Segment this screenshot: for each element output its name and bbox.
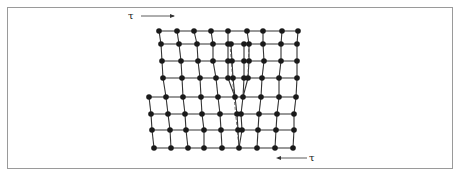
atom bbox=[199, 111, 205, 117]
arrowhead-left-icon bbox=[276, 156, 281, 160]
atom bbox=[198, 94, 204, 100]
atom bbox=[276, 94, 282, 100]
atom bbox=[294, 58, 300, 64]
atom bbox=[218, 127, 224, 133]
atom bbox=[261, 58, 267, 64]
tau-label-top: τ bbox=[128, 10, 134, 21]
bond bbox=[200, 78, 201, 97]
atom bbox=[148, 111, 154, 117]
tau-label-bottom: τ bbox=[309, 152, 315, 163]
atom bbox=[179, 75, 185, 81]
atom bbox=[236, 145, 242, 151]
atom bbox=[213, 75, 219, 81]
atom bbox=[276, 75, 282, 81]
atom bbox=[294, 41, 300, 47]
atom bbox=[174, 28, 180, 34]
atom bbox=[210, 58, 216, 64]
atom bbox=[165, 111, 171, 117]
atom bbox=[194, 41, 200, 47]
atom bbox=[272, 145, 278, 151]
atom bbox=[225, 28, 231, 34]
bond bbox=[216, 78, 218, 97]
atom bbox=[279, 28, 285, 34]
atom bbox=[197, 75, 203, 81]
atom bbox=[195, 58, 201, 64]
atom bbox=[217, 111, 223, 117]
atom bbox=[159, 58, 165, 64]
atom bbox=[278, 41, 284, 47]
atom bbox=[293, 94, 299, 100]
atom bbox=[291, 111, 297, 117]
atom bbox=[160, 75, 166, 81]
atom bbox=[208, 28, 214, 34]
atom bbox=[254, 145, 260, 151]
atom bbox=[246, 58, 252, 64]
atom bbox=[245, 75, 251, 81]
lattice-atoms bbox=[146, 28, 301, 151]
arrowhead-right-icon bbox=[170, 14, 175, 18]
atom bbox=[238, 111, 244, 117]
atom bbox=[295, 28, 301, 34]
atom bbox=[274, 111, 280, 117]
bond bbox=[163, 78, 166, 97]
atom bbox=[241, 58, 247, 64]
bond bbox=[261, 78, 262, 97]
atom bbox=[182, 111, 188, 117]
atom bbox=[201, 127, 207, 133]
atom bbox=[225, 75, 231, 81]
atom bbox=[185, 145, 191, 151]
atom bbox=[246, 41, 252, 47]
atom bbox=[176, 41, 182, 47]
atom bbox=[178, 58, 184, 64]
shear-stress-top: τ bbox=[128, 10, 175, 21]
atom bbox=[215, 94, 221, 100]
atom bbox=[260, 28, 266, 34]
atom bbox=[244, 28, 250, 34]
shear-stress-bottom: τ bbox=[276, 152, 315, 163]
atom bbox=[290, 145, 296, 151]
atom bbox=[291, 127, 297, 133]
atom bbox=[180, 94, 186, 100]
atom bbox=[183, 127, 189, 133]
atom bbox=[228, 41, 234, 47]
atom bbox=[229, 58, 235, 64]
atom bbox=[191, 28, 197, 34]
atom bbox=[239, 127, 245, 133]
atom bbox=[210, 41, 216, 47]
atom bbox=[158, 41, 164, 47]
atom bbox=[201, 145, 207, 151]
atom bbox=[163, 94, 169, 100]
atom bbox=[260, 41, 266, 47]
atom bbox=[156, 28, 162, 34]
atom bbox=[219, 145, 225, 151]
lattice-diagram: τ τ bbox=[0, 0, 461, 176]
atom bbox=[149, 127, 155, 133]
atom bbox=[258, 94, 264, 100]
atom bbox=[241, 41, 247, 47]
atom bbox=[240, 94, 246, 100]
atom bbox=[167, 127, 173, 133]
atom bbox=[259, 75, 265, 81]
bond bbox=[182, 78, 183, 97]
atom bbox=[151, 145, 157, 151]
atom bbox=[273, 127, 279, 133]
atom bbox=[168, 145, 174, 151]
atom bbox=[232, 94, 238, 100]
atom bbox=[256, 111, 262, 117]
atom bbox=[146, 94, 152, 100]
atom bbox=[230, 75, 236, 81]
atom bbox=[255, 127, 261, 133]
atom bbox=[294, 75, 300, 81]
bond bbox=[296, 78, 297, 97]
atom bbox=[278, 58, 284, 64]
